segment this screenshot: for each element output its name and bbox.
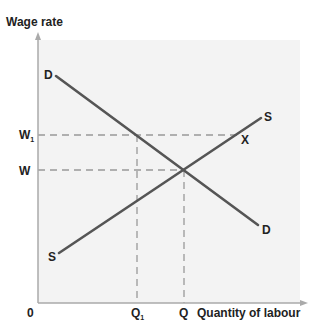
plot-background bbox=[38, 40, 300, 303]
supply-end-label: S bbox=[264, 110, 272, 124]
w1-label: W1 bbox=[19, 128, 34, 143]
origin-label: 0 bbox=[27, 306, 34, 320]
demand-end-label: D bbox=[262, 223, 271, 237]
q-label: Q bbox=[179, 306, 188, 320]
w-label: W bbox=[19, 164, 31, 178]
y-axis-arrow-icon bbox=[35, 32, 41, 40]
q1-label: Q1 bbox=[131, 306, 144, 321]
labour-market-chart: Wage rate Quantity of labour 0 D D S S X… bbox=[0, 0, 331, 327]
y-axis-label: Wage rate bbox=[6, 15, 63, 29]
x-axis-arrow-icon bbox=[300, 300, 308, 306]
x-axis-label: Quantity of labour bbox=[197, 306, 301, 320]
point-x-label: X bbox=[241, 133, 249, 147]
demand-start-label: D bbox=[44, 68, 53, 82]
supply-start-label: S bbox=[48, 250, 56, 264]
